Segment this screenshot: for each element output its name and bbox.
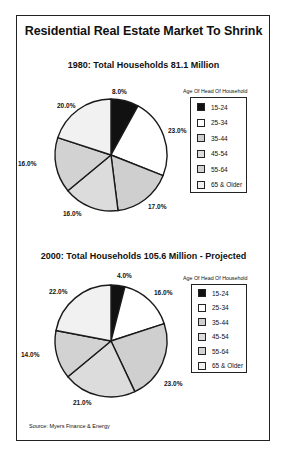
slice-value-label: 17.0% xyxy=(148,203,166,210)
legend-swatch xyxy=(198,289,206,297)
slice-value-label: 22.0% xyxy=(49,288,67,295)
legend-swatch xyxy=(197,165,205,173)
legend-label: 15-24 xyxy=(211,104,228,111)
pie-2000-title: 2000: Total Households 105.6 Million - P… xyxy=(0,251,287,261)
legend-swatch xyxy=(197,181,205,189)
legend-swatch xyxy=(197,134,205,142)
legend-item: 65 & Older xyxy=(198,361,243,371)
legend-2000: 15-2425-3435-4445-5455-6465 & Older xyxy=(191,284,247,373)
pie-1980-title: 1980: Total Households 81.1 Million xyxy=(0,60,287,70)
slice-value-label: 23.0% xyxy=(164,380,182,387)
legend-item: 45-54 xyxy=(198,332,229,342)
legend-swatch xyxy=(198,347,206,355)
slice-value-label: 16.0% xyxy=(154,289,172,296)
legend-item: 25-34 xyxy=(198,303,229,313)
legend-label: 35-44 xyxy=(211,135,228,142)
legend-label: 65 & Older xyxy=(212,362,243,369)
source-note: Source: Myers Finance & Energy xyxy=(29,423,110,429)
legend-1980: 15-2425-3435-4445-5455-6465 & Older xyxy=(190,97,247,193)
legend-label: 55-64 xyxy=(212,348,229,355)
slice-value-label: 16.0% xyxy=(18,160,36,167)
legend-label: 55-64 xyxy=(211,166,228,173)
legend-swatch xyxy=(198,333,206,341)
legend-item: 65 & Older xyxy=(197,180,242,190)
pie-chart-1980 xyxy=(50,94,172,216)
slice-value-label: 16.0% xyxy=(63,210,81,217)
slice-value-label: 21.0% xyxy=(73,399,91,406)
legend-2000-title: Age Of Head Of Household xyxy=(183,275,247,281)
slice-value-label: 23.0% xyxy=(168,127,186,134)
legend-item: 25-34 xyxy=(197,118,228,128)
legend-swatch xyxy=(198,318,206,326)
legend-item: 55-64 xyxy=(197,164,228,174)
legend-swatch xyxy=(197,103,205,111)
legend-item: 55-64 xyxy=(198,346,229,356)
legend-item: 15-24 xyxy=(198,288,229,298)
legend-1980-title: Age Of Head Of Household xyxy=(183,88,247,94)
legend-item: 35-44 xyxy=(198,317,229,327)
legend-swatch xyxy=(197,119,205,127)
legend-label: 25-34 xyxy=(212,304,229,311)
slice-value-label: 8.0% xyxy=(112,88,127,95)
legend-label: 65 & Older xyxy=(211,181,242,188)
legend-label: 45-54 xyxy=(211,150,228,157)
legend-swatch xyxy=(198,304,206,312)
legend-label: 15-24 xyxy=(212,290,229,297)
pie-chart-2000 xyxy=(50,280,172,402)
legend-item: 35-44 xyxy=(197,133,228,143)
legend-label: 25-34 xyxy=(211,119,228,126)
legend-swatch xyxy=(198,362,206,370)
legend-item: 15-24 xyxy=(197,102,228,112)
legend-swatch xyxy=(197,150,205,158)
slice-value-label: 4.0% xyxy=(117,272,132,279)
legend-label: 45-54 xyxy=(212,333,229,340)
legend-label: 35-44 xyxy=(212,319,229,326)
legend-item: 45-54 xyxy=(197,149,228,159)
slice-value-label: 14.0% xyxy=(21,351,39,358)
chart-title: Residential Real Estate Market To Shrink xyxy=(0,24,287,38)
slice-value-label: 20.0% xyxy=(57,102,75,109)
